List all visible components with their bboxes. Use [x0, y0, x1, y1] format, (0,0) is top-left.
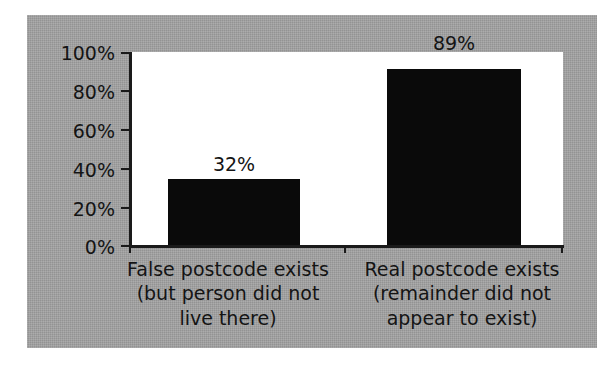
value-label-false-postcode: 32% — [213, 153, 255, 175]
x-category-label-false-postcode-line2: (but person did not — [111, 281, 345, 305]
y-tick-label-60: 60% — [73, 120, 115, 142]
y-tick-40 — [121, 168, 130, 170]
x-category-label-false-postcode-line3: live there) — [111, 306, 345, 330]
x-category-label-real-postcode: Real postcode exists (remainder did not … — [345, 257, 579, 330]
x-axis-line — [129, 245, 564, 248]
y-tick-label-0: 0% — [85, 236, 115, 258]
x-tick-category-separator — [344, 245, 346, 253]
y-tick-label-100: 100% — [61, 42, 115, 64]
y-tick-label-40: 40% — [73, 159, 115, 181]
x-category-label-real-postcode-line2: (remainder did not — [345, 281, 579, 305]
chart-panel: 32% 89% 100% 80% 60% 40% 20% 0% — [27, 15, 597, 348]
x-category-label-real-postcode-line3: appear to exist) — [345, 306, 579, 330]
y-tick-20 — [121, 207, 130, 209]
x-tick-left-end — [129, 245, 131, 253]
plot-area: 32% — [129, 52, 563, 245]
x-category-label-real-postcode-line1: Real postcode exists — [345, 257, 579, 281]
y-tick-label-80: 80% — [73, 81, 115, 103]
value-label-real-postcode: 89% — [433, 32, 475, 54]
y-axis-line — [129, 52, 132, 246]
chart-figure: 32% 89% 100% 80% 60% 40% 20% 0% — [0, 0, 614, 365]
y-tick-60 — [121, 129, 130, 131]
x-tick-right-end — [561, 245, 563, 253]
y-tick-80 — [121, 90, 130, 92]
x-category-label-false-postcode-line1: False postcode exists — [111, 257, 345, 281]
y-tick-label-20: 20% — [73, 198, 115, 220]
bar-false-postcode[interactable] — [168, 179, 300, 245]
y-tick-100 — [121, 52, 130, 54]
bar-real-postcode[interactable] — [387, 69, 521, 245]
x-category-label-false-postcode: False postcode exists (but person did no… — [111, 257, 345, 330]
